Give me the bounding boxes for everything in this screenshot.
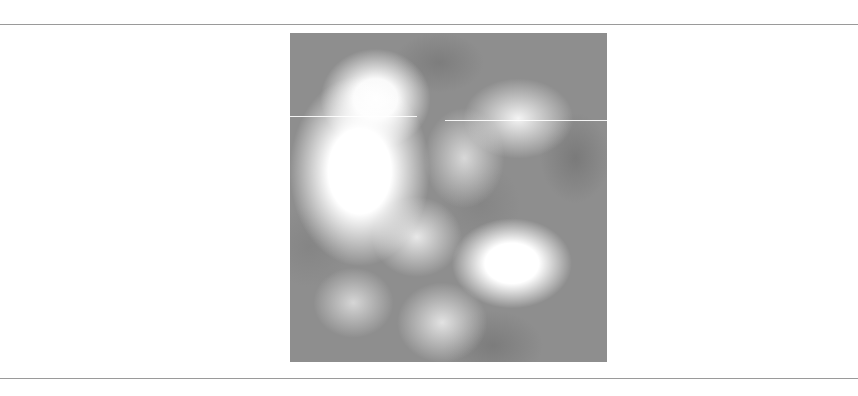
scanline-artifact: [290, 116, 417, 117]
bottom-divider: [0, 378, 858, 379]
noise-texture-image: [290, 33, 607, 362]
scanline-artifact: [445, 120, 607, 121]
top-divider: [0, 24, 858, 25]
